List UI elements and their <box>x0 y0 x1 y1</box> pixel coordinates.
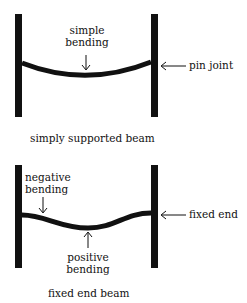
fixed-end-beam <box>22 213 151 228</box>
negative-bending-label: negative bending <box>25 171 71 195</box>
negative-bending-arrow-icon <box>39 197 47 213</box>
simple-bending-arrow-icon <box>82 55 90 70</box>
simple-bending-label-line2: bending <box>62 36 112 48</box>
pin-joint-arrow-icon <box>161 62 186 70</box>
right-fixed-post <box>151 165 158 268</box>
simple-bending-label-line1: simple <box>62 24 112 36</box>
positive-bending-label-line1: positive <box>63 251 113 263</box>
fixed-end-beam-caption: fixed end beam <box>48 287 129 299</box>
positive-bending-label-line2: bending <box>63 263 113 275</box>
left-support-post <box>15 14 22 117</box>
beam-diagram-graphics <box>0 0 247 303</box>
fixed-end-arrow-icon <box>161 211 186 219</box>
right-support-post <box>151 14 158 117</box>
negative-bending-label-line1: negative <box>25 171 71 183</box>
negative-bending-label-line2: bending <box>25 183 71 195</box>
simple-bending-label: simple bending <box>62 24 112 48</box>
positive-bending-label: positive bending <box>63 251 113 275</box>
fixed-end-label: fixed end <box>189 208 238 220</box>
left-fixed-post <box>15 165 22 268</box>
positive-bending-arrow-icon <box>84 232 92 248</box>
simply-supported-caption: simply supported beam <box>30 132 155 144</box>
pin-joint-label: pin joint <box>189 59 233 71</box>
